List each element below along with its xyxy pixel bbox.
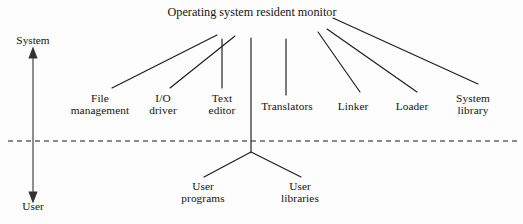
system-user-axis-arrow	[29, 48, 37, 202]
edge-monitor-linker	[318, 32, 360, 92]
edge-monitor-file-management	[112, 35, 217, 88]
axis-label-system: System	[16, 34, 49, 46]
node-user-programs: User programs	[181, 180, 224, 204]
edge-monitor-io-driver	[170, 36, 235, 88]
node-user-libraries: User libraries	[281, 180, 319, 204]
node-file-management-line2: management	[71, 104, 130, 116]
axis-label-system-text: System	[16, 34, 49, 46]
node-user-programs-line2: programs	[181, 192, 224, 204]
node-linker-line1: Linker	[338, 100, 369, 112]
node-system-library: System library	[456, 92, 490, 116]
node-operating-system-resident-monitor: Operating system resident monitor	[168, 6, 337, 20]
axis-label-user: User	[22, 200, 43, 212]
diagram-canvas: Operating system resident monitor System…	[0, 0, 523, 224]
node-io-driver-line2: driver	[149, 104, 177, 116]
node-text-editor-line1: Text	[212, 92, 232, 104]
edge-hub-user-libraries	[251, 152, 301, 177]
node-io-driver-line1: I/O	[155, 92, 170, 104]
axis-label-user-text: User	[22, 200, 43, 212]
monitor-title-line2: monitor	[298, 5, 337, 19]
node-text-editor: Text editor	[209, 92, 236, 116]
node-user-libraries-line2: libraries	[281, 192, 319, 204]
node-file-management: File management	[71, 92, 130, 116]
node-translators-line1: Translators	[261, 100, 313, 112]
node-system-library-line1: System	[456, 92, 490, 104]
node-user-libraries-line1: User	[289, 180, 311, 192]
node-file-management-line1: File	[91, 92, 109, 104]
node-loader-line1: Loader	[396, 100, 429, 112]
node-user-programs-line1: User	[192, 180, 214, 192]
edge-hub-user-programs	[204, 152, 251, 177]
edge-monitor-loader	[327, 29, 417, 92]
node-linker: Linker	[338, 100, 369, 112]
node-io-driver: I/O driver	[149, 92, 177, 116]
node-loader: Loader	[396, 100, 429, 112]
monitor-title-line1: Operating system resident	[168, 5, 295, 19]
edge-monitor-system-library	[333, 18, 478, 84]
node-translators: Translators	[261, 100, 313, 112]
node-text-editor-line2: editor	[209, 104, 236, 116]
node-system-library-line2: library	[456, 104, 490, 116]
